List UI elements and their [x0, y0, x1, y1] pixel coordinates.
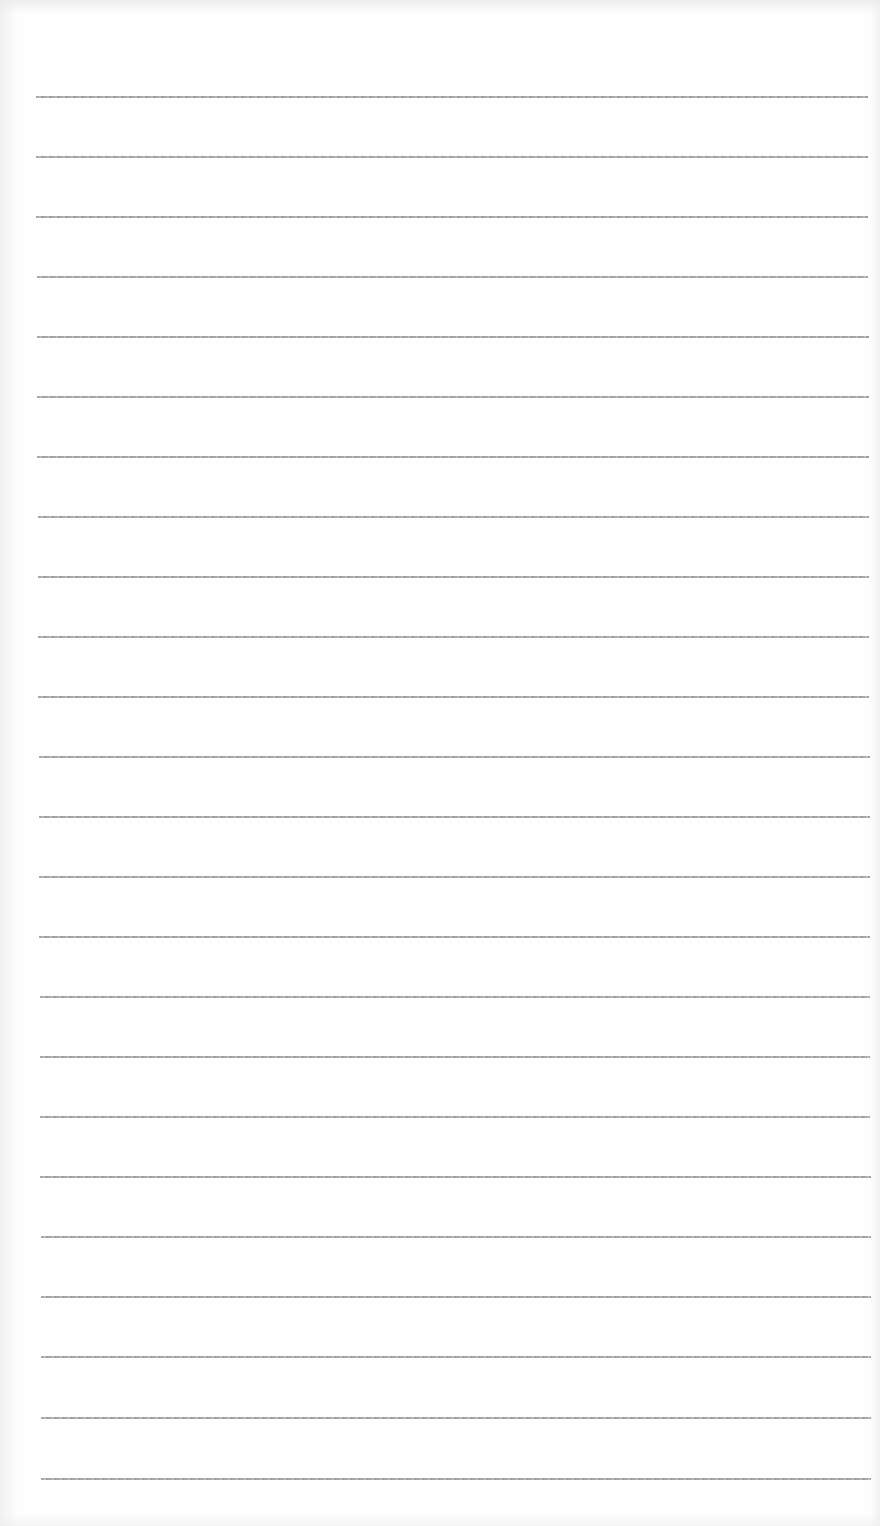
- ruled-line: [37, 396, 869, 398]
- ruled-line: [40, 1116, 870, 1118]
- lined-paper-page: [0, 0, 880, 1526]
- ruled-line: [36, 156, 868, 158]
- ruled-line: [40, 996, 870, 998]
- ruled-line: [38, 696, 869, 698]
- ruled-line: [38, 516, 869, 518]
- ruled-line: [37, 336, 869, 338]
- ruled-line: [41, 1236, 871, 1238]
- ruled-line: [39, 936, 870, 938]
- ruled-line: [39, 876, 870, 878]
- ruled-line: [38, 576, 869, 578]
- ruled-line: [41, 1478, 871, 1480]
- ruled-line: [37, 456, 869, 458]
- ruled-line: [40, 1176, 871, 1178]
- ruled-line: [40, 1056, 870, 1058]
- ruled-line: [39, 816, 870, 818]
- ruled-line: [41, 1417, 871, 1419]
- ruled-line: [39, 756, 870, 758]
- ruled-line: [36, 96, 868, 98]
- ruled-lines: [0, 0, 880, 1526]
- ruled-line: [41, 1296, 871, 1298]
- ruled-line: [37, 276, 868, 278]
- ruled-line: [36, 216, 868, 218]
- ruled-line: [41, 1356, 871, 1358]
- ruled-line: [38, 636, 869, 638]
